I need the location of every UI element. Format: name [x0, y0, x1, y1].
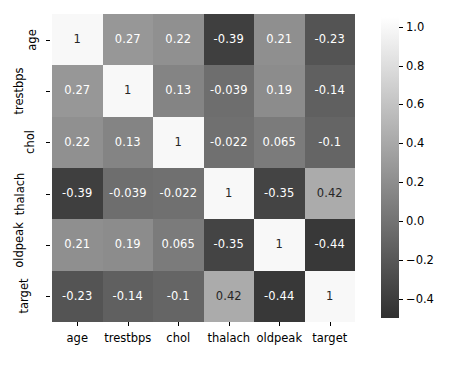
heatmap-cell-value: 0.27 [64, 85, 90, 97]
heatmap-cell-value: 0.42 [216, 291, 242, 303]
colorbar-tick-label: 1.0 [406, 20, 424, 34]
x-tick-label-trestbps: trestbps [103, 331, 154, 345]
colorbar-tick-label: 0.8 [406, 59, 424, 73]
heatmap-cell: 0.19 [254, 65, 305, 116]
x-tick-mark [128, 322, 129, 326]
heatmap-cell: -0.14 [305, 65, 356, 116]
y-tick-mark [46, 40, 50, 41]
heatmap-cell: 1 [52, 14, 103, 65]
heatmap-cell: -0.35 [204, 219, 255, 270]
y-tick-label-thalach: thalach [0, 168, 42, 219]
heatmap-cell-value: 0.13 [115, 137, 141, 149]
heatmap-cell-value: -0.23 [315, 34, 345, 46]
heatmap-cell-value: -0.1 [318, 137, 341, 149]
y-tick-mark [46, 245, 50, 246]
heatmap-cell: -0.39 [52, 168, 103, 219]
heatmap-cell: 1 [305, 271, 356, 322]
heatmap-cell: -0.14 [103, 271, 154, 322]
heatmap-cell-value: -0.35 [264, 188, 294, 200]
colorbar-tick-mark [399, 182, 403, 183]
heatmap-cell: -0.039 [103, 168, 154, 219]
heatmap-cell: 0.27 [52, 65, 103, 116]
y-tick-label-text: target [18, 279, 32, 314]
y-tick-label-text: chol [23, 130, 37, 154]
heatmap-cell: 0.22 [52, 117, 103, 168]
heatmap-cell-value: -0.23 [62, 291, 92, 303]
heatmap-cell: -0.23 [52, 271, 103, 322]
heatmap-cell-value: -0.039 [210, 85, 248, 97]
y-tick-label-text: age [24, 29, 38, 50]
x-tick-label-target: target [305, 331, 356, 345]
heatmap-cell: 0.13 [153, 65, 204, 116]
heatmap-cell: 0.21 [254, 14, 305, 65]
heatmap-cell: -0.1 [305, 117, 356, 168]
heatmap-cell: 0.065 [254, 117, 305, 168]
colorbar-tick-mark [399, 27, 403, 28]
heatmap-cell-value: 0.21 [64, 239, 90, 251]
heatmap-cell-value: -0.39 [214, 34, 244, 46]
x-tick-label-age: age [52, 331, 103, 345]
colorbar-tick-label: 0.0 [406, 214, 424, 228]
heatmap-cell-value: 1 [124, 85, 131, 97]
colorbar-tick-label: 0.4 [406, 136, 424, 150]
y-tick-label-oldpeak: oldpeak [0, 219, 42, 270]
heatmap-cell: 1 [204, 168, 255, 219]
heatmap-cell-value: -0.44 [264, 291, 294, 303]
y-tick-label-text: thalach [14, 172, 28, 215]
heatmap-cell: 1 [153, 117, 204, 168]
heatmap-cell-value: 1 [225, 188, 232, 200]
heatmap-cell-value: -0.39 [62, 188, 92, 200]
heatmap-cell-value: -0.14 [113, 291, 143, 303]
heatmap-cell: 0.42 [204, 271, 255, 322]
heatmap-cell: 0.21 [52, 219, 103, 270]
x-tick-mark [229, 322, 230, 326]
heatmap-cell: 0.13 [103, 117, 154, 168]
y-tick-label-chol: chol [18, 117, 42, 168]
heatmap-cell: 0.42 [305, 168, 356, 219]
heatmap-cell: 0.27 [103, 14, 154, 65]
y-tick-mark [46, 296, 50, 297]
heatmap-grid: 10.270.22-0.390.21-0.230.2710.13-0.0390.… [52, 14, 355, 322]
x-axis: agetrestbpscholthalacholdpeaktarget [52, 322, 355, 352]
correlation-heatmap-figure: 10.270.22-0.390.21-0.230.2710.13-0.0390.… [0, 0, 464, 377]
heatmap-cell: 0.065 [153, 219, 204, 270]
heatmap-cell: 1 [254, 219, 305, 270]
heatmap-cell-value: -0.039 [109, 188, 147, 200]
heatmap-cell-value: -0.1 [167, 291, 190, 303]
heatmap-cell-value: -0.022 [210, 137, 248, 149]
heatmap-cell: -0.35 [254, 168, 305, 219]
colorbar-tick-mark [399, 66, 403, 67]
heatmap-cell: 0.19 [103, 219, 154, 270]
colorbar-tick-mark [399, 260, 403, 261]
y-tick-label-age: age [21, 14, 42, 65]
heatmap-cell-value: 0.21 [266, 34, 292, 46]
heatmap-cell-value: 0.22 [165, 34, 191, 46]
heatmap-cell-value: 0.42 [317, 188, 343, 200]
heatmap-cell-value: 1 [326, 291, 333, 303]
y-tick-label-text: trestbps [11, 67, 25, 114]
x-tick-label-chol: chol [153, 331, 204, 345]
heatmap-cell-value: -0.44 [315, 239, 345, 251]
x-tick-mark [330, 322, 331, 326]
y-tick-mark [46, 142, 50, 143]
heatmap-cell-value: -0.14 [315, 85, 345, 97]
y-tick-label-text: oldpeak [12, 222, 26, 268]
y-tick-mark [46, 91, 50, 92]
x-tick-mark [279, 322, 280, 326]
heatmap-cell-value: 0.27 [115, 34, 141, 46]
heatmap-cell: -0.039 [204, 65, 255, 116]
colorbar-tick-mark [399, 143, 403, 144]
y-tick-mark [46, 194, 50, 195]
x-tick-mark [77, 322, 78, 326]
heatmap-cell-value: 1 [74, 34, 81, 46]
colorbar: 1.00.80.60.40.20.0−0.2−0.4 [381, 17, 399, 318]
heatmap-cell: -0.1 [153, 271, 204, 322]
colorbar-tick-label: 0.2 [406, 175, 424, 189]
heatmap-cell-value: 0.22 [64, 137, 90, 149]
colorbar-tick-mark [399, 104, 403, 105]
x-tick-mark [178, 322, 179, 326]
y-axis: agetrestbpscholthalacholdpeaktarget [0, 14, 50, 322]
y-tick-label-trestbps: trestbps [0, 65, 42, 116]
heatmap-cell: -0.022 [153, 168, 204, 219]
colorbar-gradient [381, 17, 399, 318]
